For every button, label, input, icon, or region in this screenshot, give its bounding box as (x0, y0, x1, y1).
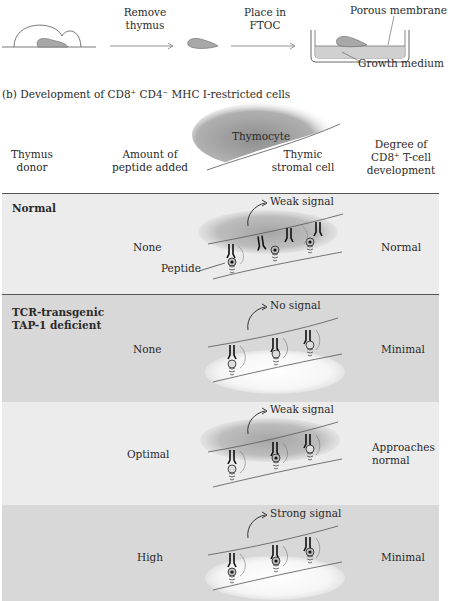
peptide-callout: Peptide (161, 262, 201, 275)
row1-signal: Weak signal (270, 195, 334, 208)
synapse-tap1-deficient (205, 304, 345, 394)
row2-degree: Minimal (381, 343, 425, 356)
donor-line: TAP-1 deficient (12, 319, 104, 332)
row2-signal: No signal (270, 299, 321, 312)
row2-peptide: None (133, 343, 162, 356)
degree-line: Approaches (372, 441, 435, 454)
row3-peptide: Optimal (127, 448, 169, 461)
row4-degree: Minimal (381, 551, 425, 564)
row1-degree: Normal (381, 241, 421, 254)
donor-line: TCR-transgenic (12, 306, 104, 319)
row2-donor: TCR-transgenic TAP-1 deficient (12, 306, 104, 332)
row1-peptide: None (133, 241, 162, 254)
row1-donor: Normal (12, 202, 56, 215)
row3-signal: Weak signal (270, 403, 334, 416)
degree-line: normal (372, 454, 435, 467)
synapse-diagrams (0, 0, 451, 601)
synapse-optimal (200, 408, 342, 487)
synapse-high (205, 512, 345, 600)
row4-peptide: High (137, 551, 163, 564)
synapse-normal (198, 200, 343, 279)
row3-degree: Approaches normal (372, 441, 435, 467)
row4-signal: Strong signal (270, 507, 341, 520)
